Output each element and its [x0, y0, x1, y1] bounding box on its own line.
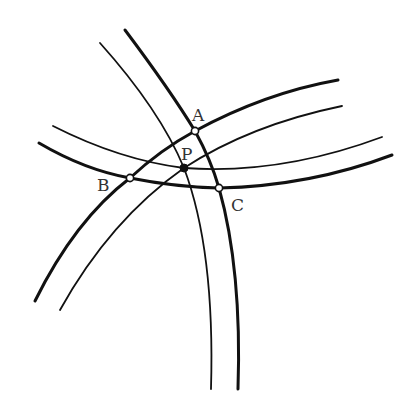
point-p — [180, 164, 188, 172]
arc-BA-thick — [35, 80, 338, 301]
point-c — [215, 184, 222, 191]
label-b: B — [97, 175, 110, 195]
point-b — [126, 174, 133, 181]
point-a — [191, 127, 198, 134]
arc-P-vertical-thin — [100, 43, 211, 389]
arcs-group — [35, 30, 392, 389]
arc-AC-thick — [125, 30, 239, 389]
geometry-diagram: ABCP — [0, 0, 413, 409]
label-a: A — [191, 105, 205, 125]
arc-P-horizontal-thin — [53, 126, 382, 169]
label-c: C — [231, 195, 244, 215]
label-p: P — [181, 144, 192, 164]
arc-P-rising-thin — [60, 106, 342, 310]
